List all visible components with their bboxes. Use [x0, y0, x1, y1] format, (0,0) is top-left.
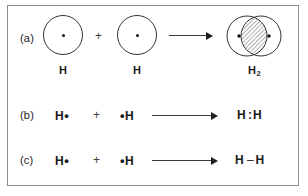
product-label-h2-subscript: 2 — [257, 69, 261, 78]
atom-label-h1: H — [59, 65, 67, 76]
nucleus-dot-h2-right — [267, 34, 270, 37]
row-b-reactant-2: •H — [120, 109, 134, 122]
product-label-h2-text: H — [248, 64, 256, 76]
row-c-product: H–H — [235, 154, 265, 166]
row-c-product-right: H — [256, 153, 266, 167]
row-c-reactant-1: H• — [55, 154, 69, 167]
row-c-reactant-1-electron-dot: • — [64, 153, 69, 168]
figure-hydrogen-bond-formation: (a) H + H — [0, 0, 308, 196]
overlap-diagram-h2 — [225, 13, 289, 59]
reaction-arrow-a — [169, 31, 213, 40]
row-b-reactant-1-electron-dot: • — [64, 108, 69, 123]
row-b-reactant-2-symbol: H — [125, 109, 134, 123]
row-b-reactant-2-electron-dot: • — [120, 108, 125, 123]
row-c-tag: (c) — [20, 155, 33, 166]
plus-sign-c: + — [93, 154, 100, 166]
row-c-product-left: H — [235, 153, 245, 167]
row-b-product: H:H — [237, 109, 263, 121]
nucleus-dot-h2 — [136, 34, 139, 37]
nucleus-dot-h2-left — [237, 34, 240, 37]
nucleus-dot-h1 — [62, 34, 65, 37]
product-label-h2: H2 — [248, 65, 261, 76]
row-b-product-left: H — [237, 108, 247, 122]
reaction-arrow-c — [152, 156, 218, 165]
atom-label-h2: H — [133, 65, 141, 76]
plus-sign-b: + — [93, 109, 100, 121]
row-b-reactant-1: H• — [55, 109, 69, 122]
row-c-reactant-2-electron-dot: • — [120, 153, 125, 168]
plus-sign-a: + — [95, 30, 102, 42]
reaction-arrow-b — [152, 111, 218, 120]
row-c-reactant-2: •H — [120, 154, 134, 167]
row-b-tag: (b) — [20, 110, 34, 121]
row-c-reactant-1-symbol: H — [55, 154, 64, 168]
row-a-tag: (a) — [20, 33, 34, 44]
row-b-product-right: H — [253, 108, 263, 122]
row-c-reactant-2-symbol: H — [125, 154, 134, 168]
row-c-product-bond-line: – — [245, 153, 256, 167]
row-b-reactant-1-symbol: H — [55, 109, 64, 123]
